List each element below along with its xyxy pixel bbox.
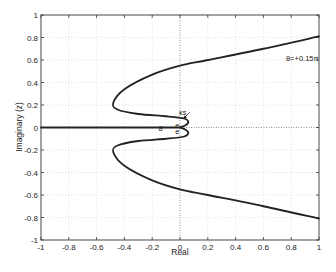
x-axis-label: Real (171, 247, 189, 257)
y-tick-label: 0.6 (27, 56, 39, 65)
series-line (113, 128, 319, 219)
x-tick-label: 0.6 (258, 243, 270, 252)
y-tick-label: -1 (31, 236, 39, 245)
annotation-text: e (175, 127, 179, 136)
y-tick-label: -0.6 (24, 191, 38, 200)
series-line (113, 36, 319, 127)
y-tick-label: 0.4 (27, 79, 39, 88)
y-tick-labels: 10.80.60.40.20-0.2-0.4-0.6-0.8-1 (24, 11, 38, 245)
y-tick-label: -0.8 (24, 214, 38, 223)
annotation-text: θ=+0.15π (286, 54, 319, 63)
y-tick-label: 1 (34, 11, 39, 20)
x-tick-label: -0.4 (118, 243, 132, 252)
x-tick-label: 1 (317, 243, 322, 252)
x-tick-label: -1 (37, 243, 45, 252)
x-tick-label: 0.4 (230, 243, 242, 252)
x-tick-label: -0.6 (90, 243, 104, 252)
y-tick-label: -0.2 (24, 146, 38, 155)
x-tick-label: 0.2 (202, 243, 214, 252)
root-locus-chart: -1-0.8-0.6-0.4-0.200.20.40.60.81 10.80.6… (0, 0, 336, 272)
y-tick-label: -0.4 (24, 169, 38, 178)
y-axis-label: Imaginary (z) (14, 102, 24, 152)
x-tick-label: -0.8 (62, 243, 76, 252)
y-tick-label: 0.2 (27, 101, 39, 110)
data-series (41, 36, 319, 218)
x-tick-label: -0.2 (145, 243, 159, 252)
annotation-text: κs (179, 108, 187, 117)
y-tick-label: 0 (34, 124, 39, 133)
annotations: θ=+0.15πκs8ee (158, 54, 318, 136)
x-tick-label: 0.8 (286, 243, 298, 252)
y-tick-label: 0.8 (27, 34, 39, 43)
annotation-text: 8 (158, 124, 162, 133)
